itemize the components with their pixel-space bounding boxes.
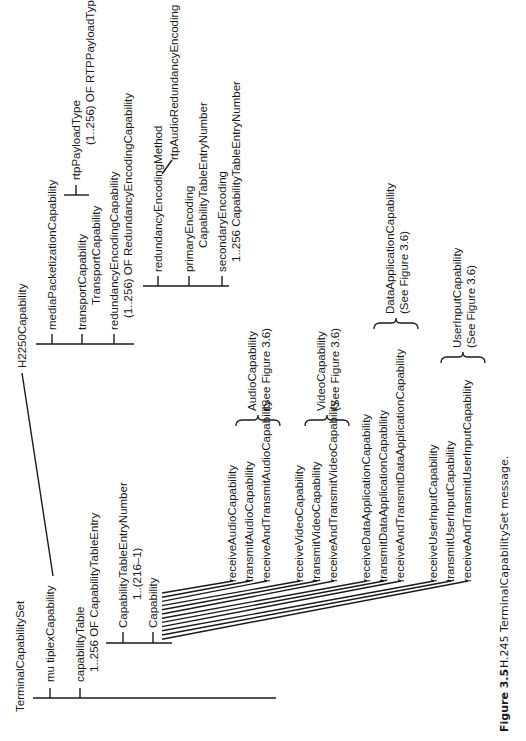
group-name-label: AudioCapability xyxy=(246,331,258,411)
primary-encoding-sub: CapabilityTableEntryNumber xyxy=(197,102,209,248)
capability-table-sub: 1..256 OF CapabilityTableEntry xyxy=(88,513,100,672)
capability-choice-label: transmitDataApplicationCapability xyxy=(377,410,389,582)
capability-table-label: capabilityTable xyxy=(74,607,86,682)
h2250-tree: H2250Capability mediaPacketizationCapabi… xyxy=(16,0,242,368)
redundancy-label: redundancyEncodingCapability xyxy=(108,171,120,330)
group-brace xyxy=(236,415,280,426)
group-brace xyxy=(441,352,485,363)
transport-label: transportCapability xyxy=(76,234,88,330)
multiplex-label: mu tiplexCapability xyxy=(44,585,56,682)
fan-line xyxy=(162,581,317,610)
terminal-capability-set-diagram: TerminalCapabilitySet mu tiplexCapabilit… xyxy=(0,0,526,741)
entry-number-sub: 1..(216–1) xyxy=(131,547,143,600)
h2250-label: H2250Capability xyxy=(16,283,28,368)
group-reference-label: (See Figure 3.6) xyxy=(329,328,341,411)
capability-choice-label: transmitAudioCapability xyxy=(243,461,255,582)
root-label: TerminalCapabilitySet xyxy=(14,600,26,712)
secondary-encoding-sub: 1..256 CapabilityTableEntryNumber xyxy=(230,81,242,262)
redundancy-sub: (1..256) OF RedundancyEncodingCapability xyxy=(122,93,134,318)
capability-choice-label: receiveAndTransmitVideoCapability xyxy=(327,400,339,582)
redundancy-method-label: redundancyEncodingMethod xyxy=(152,126,164,272)
capability-choice-label: receiveAudioCapability xyxy=(226,465,238,582)
capability-fan xyxy=(162,581,468,639)
capability-choice-label: receiveUserInputCapability xyxy=(427,444,439,582)
rtp-payload-type-label: rtpPayloadType xyxy=(70,100,82,180)
group-reference-label: (See Figure 3.6) xyxy=(398,231,410,314)
primary-encoding-label: primaryEncoding xyxy=(183,186,195,272)
group-brace xyxy=(374,318,418,329)
transport-sub: TransportCapability xyxy=(90,205,102,305)
figure-number: Figure 3.5 xyxy=(498,669,511,732)
figure-caption: Figure 3.5 H.245 TerminalCapabilitySet m… xyxy=(498,456,511,732)
fan-line xyxy=(162,581,334,614)
group-name-label: DataApplicationCapability xyxy=(384,183,396,314)
capability-label: Capability xyxy=(147,577,159,628)
capability-choice-label: transmitVideoCapability xyxy=(310,461,322,582)
group-name-label: VideoCapability xyxy=(315,331,327,411)
capability-choice-label: receiveAndTransmitDataApplicationCapabil… xyxy=(394,349,406,582)
capability-choice-label: transmitUserInputCapability xyxy=(444,440,456,582)
entry-number-label: CapabilityTableEntryNumber xyxy=(117,482,129,628)
capability-choice-label: receiveAndTransmitAudioCapability xyxy=(260,400,272,582)
capability-table-tree: CapabilityTableEntryNumber 1..(216–1) Ca… xyxy=(106,482,172,643)
capability-choice-label: receiveDataApplicationCapability xyxy=(360,414,372,582)
rtp-audio-redundancy-label: rtpAudioRedundancyEncoding xyxy=(168,5,180,160)
figure-caption-text: H.245 TerminalCapabilitySet message. xyxy=(498,456,511,668)
capability-choice-label: receiveVideoCapability xyxy=(293,465,305,582)
multiplex-to-h2250-link xyxy=(22,373,53,576)
capability-choice-label: receiveAndTransmitUserInputCapability xyxy=(461,380,473,582)
group-reference-label: (See Figure 3.6) xyxy=(260,328,272,411)
rtp-payload-type-sub: (1..256) OF RTPPayloadType xyxy=(84,0,96,145)
group-reference-label: (See Figure 3.6) xyxy=(465,265,477,348)
group-name-label: UserInputCapability xyxy=(451,247,463,348)
secondary-encoding-label: secondaryEncoding xyxy=(216,171,228,272)
capability-groups: AudioCapability(See Figure 3.6)VideoCapa… xyxy=(236,183,485,426)
fan-line xyxy=(162,581,250,597)
media-packetization-label: mediaPacketizationCapability xyxy=(46,180,58,330)
